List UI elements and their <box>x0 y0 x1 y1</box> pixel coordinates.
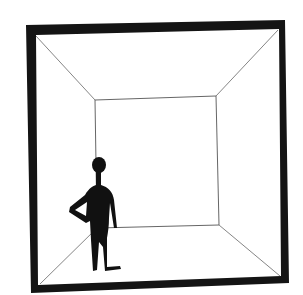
room-perspective-drawing <box>0 0 303 295</box>
perspective-lines <box>36 30 280 284</box>
human-figure <box>69 157 121 271</box>
outer-frame <box>26 20 289 293</box>
